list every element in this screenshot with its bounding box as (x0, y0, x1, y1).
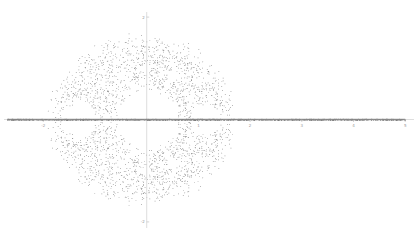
x-tick-label: 3 (301, 123, 304, 128)
scatter-plot: -212345 2-2 (0, 0, 418, 238)
y-tick-label: 2 (142, 15, 145, 20)
x-tick-label: 2 (249, 123, 252, 128)
x-tick-label: -2 (41, 123, 45, 128)
x-tick-label: 4 (352, 123, 355, 128)
x-tick-label: 5 (404, 123, 407, 128)
x-tick-label: 1 (197, 123, 200, 128)
y-tick-label: -2 (141, 219, 145, 224)
